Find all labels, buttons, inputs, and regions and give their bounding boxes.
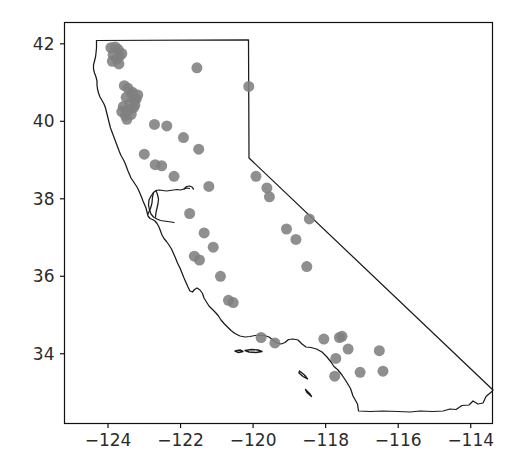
scatter-point <box>304 213 315 224</box>
scatter-point <box>113 58 124 69</box>
california-state-outline <box>94 40 494 412</box>
scatter-points <box>105 41 388 381</box>
scatter-point <box>330 353 341 364</box>
scatter-point <box>178 132 189 143</box>
scatter-point <box>228 297 239 308</box>
scatter-point <box>203 181 214 192</box>
scatter-point <box>343 344 354 355</box>
scatter-point <box>251 171 262 182</box>
scatter-point <box>156 160 167 171</box>
scatter-point <box>121 114 132 125</box>
scatter-point <box>129 100 140 111</box>
scatter-point <box>161 120 172 131</box>
scatter-point <box>127 87 138 98</box>
x-tick-label: −122 <box>157 430 204 450</box>
x-tick-label: −114 <box>447 430 494 450</box>
scatter-map-figure: −124−122−120−118−116−114 3436384042 <box>0 0 520 475</box>
scatter-point <box>281 224 292 235</box>
scatter-point <box>264 191 275 202</box>
scatter-point <box>269 337 280 348</box>
scatter-point <box>355 367 366 378</box>
y-tick-label: 38 <box>33 189 55 209</box>
scatter-point <box>116 48 127 59</box>
scatter-point <box>194 255 205 266</box>
scatter-point <box>243 81 254 92</box>
x-tick-label: −118 <box>302 430 349 450</box>
scatter-point <box>191 62 202 73</box>
plot-canvas: −124−122−120−118−116−114 3436384042 <box>0 0 520 475</box>
y-axis-ticks <box>60 44 65 354</box>
y-tick-label: 42 <box>33 34 55 54</box>
y-tick-label: 36 <box>33 266 55 286</box>
santa-cruz-island <box>245 350 262 353</box>
san-francisco-bay-feature <box>148 188 190 214</box>
y-tick-label: 40 <box>33 111 55 131</box>
scatter-point <box>377 366 388 377</box>
scatter-point <box>290 234 301 245</box>
scatter-point <box>318 334 329 345</box>
scatter-point <box>215 271 226 282</box>
x-axis-ticks <box>108 424 471 429</box>
san-clemente-island <box>306 390 312 397</box>
x-tick-label: −120 <box>230 430 277 450</box>
y-axis-tick-labels: 3436384042 <box>33 34 55 364</box>
santa-rosa-island <box>235 350 243 353</box>
scatter-point <box>208 242 219 253</box>
bay-delta-branch <box>156 191 159 218</box>
x-tick-label: −124 <box>85 430 132 450</box>
scatter-point <box>329 371 340 382</box>
x-tick-label: −116 <box>375 430 422 450</box>
scatter-point <box>256 332 267 343</box>
scatter-point <box>193 144 204 155</box>
scatter-point <box>336 331 347 342</box>
scatter-point <box>301 261 312 272</box>
scatter-point <box>199 227 210 238</box>
scatter-point <box>169 171 180 182</box>
y-tick-label: 34 <box>33 344 55 364</box>
x-axis-tick-labels: −124−122−120−118−116−114 <box>85 430 494 450</box>
scatter-point <box>184 208 195 219</box>
scatter-point <box>374 345 385 356</box>
santa-catalina-island <box>299 371 308 379</box>
scatter-point <box>139 149 150 160</box>
scatter-point <box>149 119 160 130</box>
